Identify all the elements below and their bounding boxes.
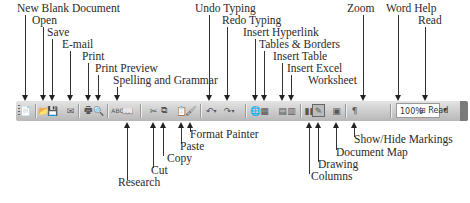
callout-label: Zoom <box>347 2 374 14</box>
callout-label: Save <box>47 26 69 38</box>
callout-label: Columns <box>311 170 353 182</box>
tables-and-borders-button[interactable]: ▦ <box>258 104 271 117</box>
drawing-button[interactable]: ✎ <box>312 104 325 117</box>
document-map-button[interactable]: ▣ <box>330 104 343 117</box>
callout-label: Worksheet <box>308 74 357 86</box>
callout-leader-line <box>163 128 164 156</box>
toolbar-separator <box>345 104 347 118</box>
arrow-up-icon <box>333 122 339 128</box>
callout-label: Paste <box>180 140 204 152</box>
callout-label: Document Map <box>336 146 408 158</box>
toolbar-separator <box>245 104 247 118</box>
callout-leader-line <box>264 51 265 95</box>
print-preview-icon: 🔍 <box>93 106 104 116</box>
callout-leader-line <box>181 128 182 144</box>
history-dropdown-arrow-icon[interactable]: ▾ <box>212 104 218 117</box>
callout-leader-line <box>282 63 283 95</box>
callout-label: Format Painter <box>190 128 259 140</box>
e-mail-button[interactable]: ✉ <box>64 104 77 117</box>
callout-leader-line <box>336 128 337 150</box>
callout-label: Insert Excel <box>287 62 342 74</box>
callout-leader-line <box>363 15 364 95</box>
callout-leader-line <box>318 128 319 162</box>
callout-leader-line <box>291 75 292 95</box>
arrow-up-icon <box>351 122 357 128</box>
read-icon: ⊞ <box>419 106 426 115</box>
callout-label: Redo Typing <box>222 14 281 26</box>
tables-and-borders-icon: ▦ <box>260 106 269 116</box>
callout-label: E-mail <box>62 38 93 50</box>
arrow-up-icon <box>306 122 312 128</box>
callout-label: Word Help <box>386 2 437 14</box>
toolbar-separator <box>300 104 302 118</box>
callout-leader-line <box>227 27 228 95</box>
arrow-up-icon <box>178 122 184 128</box>
callout-leader-line <box>70 51 71 95</box>
callout-label: Undo Typing <box>195 2 256 14</box>
callout-label: Print Preview <box>95 62 158 74</box>
callout-label: Print <box>82 50 104 62</box>
toolbar-separator <box>107 104 109 118</box>
arrow-up-icon <box>160 122 166 128</box>
insert-excel-worksheet-button[interactable]: ▥ <box>285 104 298 117</box>
read-button[interactable]: ⊞ Read <box>419 103 455 118</box>
copy-button[interactable]: ⧉ <box>157 104 170 117</box>
callout-leader-line <box>88 63 89 95</box>
callout-leader-line <box>127 128 128 180</box>
callout-leader-line <box>153 128 154 168</box>
callout-leader-line <box>117 87 118 95</box>
callout-leader-line <box>209 15 210 95</box>
read-label: Read <box>428 106 448 115</box>
callout-leader-line <box>98 75 99 95</box>
callout-leader-line <box>398 15 399 95</box>
new-blank-document-button[interactable]: 📄 <box>19 104 32 117</box>
callout-leader-line <box>255 39 256 95</box>
toolbar-separator <box>140 104 142 118</box>
toolbar-separator <box>35 104 37 118</box>
history-dropdown-arrow-icon[interactable]: ▾ <box>230 104 236 117</box>
show-hide-markings-icon: ¶ <box>352 106 358 116</box>
document-map-icon: ▣ <box>332 106 341 116</box>
callout-label: Insert Hyperlink <box>243 26 319 38</box>
toolbar-options-button[interactable] <box>460 101 468 121</box>
callout-label: Insert Table <box>273 50 327 62</box>
research-button[interactable]: 📖 <box>121 104 134 117</box>
callout-leader-line <box>52 39 53 95</box>
research-icon: 📖 <box>122 106 133 116</box>
save-icon: 💾 <box>47 106 58 116</box>
callout-leader-line <box>25 15 26 95</box>
callout-label: New Blank Document <box>17 2 120 14</box>
callout-label: Drawing <box>318 158 358 170</box>
arrow-up-icon <box>315 122 321 128</box>
show-hide-markings-button[interactable]: ¶ <box>348 104 361 117</box>
callout-label: Read <box>418 14 442 26</box>
standard-toolbar: 📄📂💾✉🖶🔍ABC📖✂⧉📋🖌↶↷🌐▦▤▥▮▮✎▣¶?▾▾ 100% ▾ ⊞ Re… <box>16 101 468 121</box>
callout-label: Open <box>32 14 57 26</box>
callout-leader-line <box>425 27 426 95</box>
callout-leader-line <box>309 128 310 174</box>
print-preview-button[interactable]: 🔍 <box>92 104 105 117</box>
callout-label: Copy <box>167 152 192 164</box>
arrow-up-icon <box>124 122 130 128</box>
callout-leader-line <box>354 128 355 137</box>
toolbar-separator <box>200 104 202 118</box>
callout-label: Tables & Borders <box>259 38 340 50</box>
e-mail-icon: ✉ <box>67 106 75 116</box>
format-painter-button[interactable]: 🖌 <box>184 104 197 117</box>
arrow-up-icon <box>150 122 156 128</box>
insert-excel-worksheet-icon: ▥ <box>287 106 296 116</box>
callout-leader-line <box>43 27 44 95</box>
drawing-icon: ✎ <box>315 106 323 116</box>
callout-label: Spelling and Grammar <box>113 74 218 86</box>
callout-label: Show/Hide Markings <box>354 133 453 145</box>
toolbar-separator <box>78 104 80 118</box>
copy-icon: ⧉ <box>161 105 167 116</box>
arrow-up-icon <box>187 122 193 128</box>
format-painter-icon: 🖌 <box>185 106 196 116</box>
callout-label: Research <box>118 176 160 188</box>
new-blank-document-icon: 📄 <box>20 106 31 116</box>
save-button[interactable]: 💾 <box>46 104 59 117</box>
callout-leader-line <box>190 128 191 132</box>
toolbar-separator <box>390 104 392 118</box>
